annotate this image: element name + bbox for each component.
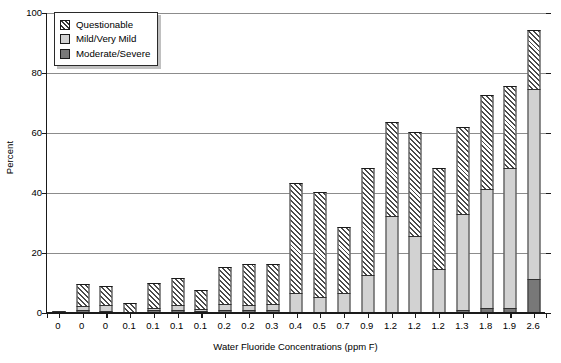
bar-slot[interactable]: [261, 12, 285, 312]
y-tick-mark-right: [546, 253, 551, 254]
bar-slot[interactable]: [475, 12, 499, 312]
segment-questionable: [171, 278, 184, 306]
legend-item-questionable: Questionable: [60, 18, 150, 32]
stacked-bar[interactable]: [266, 264, 279, 312]
bar-slot[interactable]: [522, 12, 546, 312]
segment-mild-very-mild: [456, 214, 469, 310]
x-axis-title: Water Fluoride Concentrations (ppm F): [46, 341, 545, 352]
stacked-bar[interactable]: [147, 283, 160, 312]
bar-slot[interactable]: [213, 12, 237, 312]
bar-slot[interactable]: [285, 12, 309, 312]
x-tick-label: 2.6: [518, 321, 548, 331]
stacked-bar[interactable]: [195, 290, 208, 312]
x-tick-mark: [249, 313, 250, 318]
light-gray-swatch-icon: [60, 34, 70, 44]
stacked-bar[interactable]: [385, 122, 398, 313]
bar-slot[interactable]: [498, 12, 522, 312]
legend-label-moderate-severe: Moderate/Severe: [76, 49, 150, 59]
segment-questionable: [528, 30, 541, 89]
segment-questionable: [266, 264, 279, 304]
stacked-bar[interactable]: [480, 95, 493, 313]
segment-questionable: [219, 267, 232, 304]
stacked-bar[interactable]: [290, 183, 303, 312]
bar-slot[interactable]: [380, 12, 404, 312]
segment-questionable: [361, 168, 374, 275]
segment-mild-very-mild: [504, 168, 517, 308]
segment-moderate-severe: [52, 311, 65, 313]
segment-mild-very-mild: [528, 89, 541, 280]
segment-questionable: [456, 127, 469, 214]
segment-moderate-severe: [504, 308, 517, 313]
stacked-bar[interactable]: [100, 286, 113, 312]
x-tick-mark: [320, 313, 321, 318]
segment-moderate-severe: [171, 310, 184, 312]
x-tick-mark: [297, 313, 298, 318]
x-tick-mark: [59, 313, 60, 318]
segment-mild-very-mild: [385, 216, 398, 312]
stacked-bar[interactable]: [528, 30, 541, 312]
segment-moderate-severe: [528, 279, 541, 312]
y-tick-mark-right: [546, 73, 551, 74]
segment-mild-very-mild: [361, 275, 374, 313]
stacked-bar[interactable]: [314, 192, 327, 312]
bar-slot[interactable]: [356, 12, 380, 312]
legend-label-questionable: Questionable: [76, 20, 133, 30]
segment-mild-very-mild: [433, 269, 446, 313]
segment-mild-very-mild: [314, 297, 327, 312]
x-tick-mark: [487, 313, 488, 318]
bar-slot[interactable]: [451, 12, 475, 312]
bar-slot[interactable]: [332, 12, 356, 312]
stacked-bar[interactable]: [504, 86, 517, 313]
x-tick-mark: [344, 313, 345, 318]
segment-moderate-severe: [147, 310, 160, 312]
stacked-bar[interactable]: [433, 168, 446, 312]
bar-slot[interactable]: [166, 12, 190, 312]
segment-moderate-severe: [480, 308, 493, 313]
x-tick-mark: [178, 313, 179, 318]
y-tick-label: 20: [14, 248, 42, 258]
stacked-bar[interactable]: [124, 303, 137, 312]
stacked-bar[interactable]: [338, 227, 351, 313]
legend-item-mild-very-mild: Mild/Very Mild: [60, 32, 150, 46]
bar-slot[interactable]: [403, 12, 427, 312]
x-tick-mark: [130, 313, 131, 318]
bar-slot[interactable]: [427, 12, 451, 312]
y-tick-label: 100: [14, 8, 42, 18]
stacked-bar[interactable]: [171, 278, 184, 312]
segment-questionable: [242, 264, 255, 305]
x-tick-mark: [463, 313, 464, 318]
y-axis-tick-labels: 020406080100: [12, 0, 42, 363]
hatched-swatch-icon: [60, 20, 70, 30]
segment-moderate-severe: [242, 310, 255, 312]
stacked-bar[interactable]: [242, 264, 255, 312]
x-tick-mark: [415, 313, 416, 318]
stacked-bar[interactable]: [456, 127, 469, 312]
stacked-bar[interactable]: [52, 311, 65, 313]
segment-moderate-severe: [195, 311, 208, 313]
segment-moderate-severe: [456, 310, 469, 312]
dark-gray-swatch-icon: [60, 49, 70, 59]
segment-questionable: [480, 95, 493, 190]
bar-slot[interactable]: [190, 12, 214, 312]
segment-questionable: [195, 290, 208, 309]
bar-slot[interactable]: [308, 12, 332, 312]
segment-questionable: [385, 122, 398, 217]
x-tick-mark: [83, 313, 84, 318]
segment-questionable: [338, 227, 351, 293]
segment-questionable: [314, 192, 327, 297]
stacked-bar[interactable]: [219, 267, 232, 312]
stacked-bar[interactable]: [76, 284, 89, 312]
stacked-bar[interactable]: [409, 132, 422, 312]
bar-slot[interactable]: [237, 12, 261, 312]
x-tick-mark: [534, 313, 535, 318]
x-tick-mark: [510, 313, 511, 318]
segment-questionable: [76, 284, 89, 307]
y-tick-mark-right: [546, 13, 551, 14]
segment-mild-very-mild: [338, 293, 351, 313]
y-tick-label: 80: [14, 68, 42, 78]
fluorosis-stacked-bar-chart: Percent 020406080100 0000.10.10.10.10.20…: [0, 0, 561, 363]
stacked-bar[interactable]: [361, 168, 374, 312]
segment-questionable: [290, 183, 303, 293]
segment-questionable: [433, 168, 446, 269]
segment-moderate-severe: [76, 310, 89, 312]
